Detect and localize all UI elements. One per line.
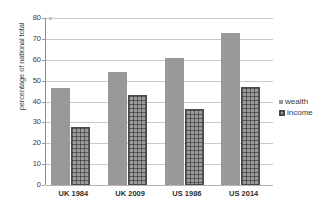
y-tick-label: 70 [19,34,41,43]
bar-group [216,18,273,185]
y-tick-mark [42,18,45,19]
bar-income [241,87,260,185]
y-tick-label: 20 [19,138,41,147]
bar-wealth [221,33,240,185]
x-tick-label: UK 1984 [45,189,101,198]
bar-group [103,18,160,185]
legend-label-income: income [287,108,313,117]
y-tick-mark [42,122,45,123]
y-tick-label: 0 [19,180,41,189]
y-tick-mark [42,102,45,103]
y-tick-mark [42,143,45,144]
bar-group [160,18,217,185]
bar-wealth [108,72,127,185]
y-tick-mark [42,60,45,61]
x-tick-label: US 1986 [159,189,215,198]
y-tick-label: 40 [19,97,41,106]
bar-group [46,18,103,185]
bar-chart: percentage of national total 01020304050… [0,0,329,214]
legend-label-wealth: wealth [285,97,308,106]
y-tick-label: 10 [19,159,41,168]
bar-wealth [51,88,70,185]
x-tick-label: UK 2009 [102,189,158,198]
y-tick-mark [42,164,45,165]
legend-swatch-wealth-icon [279,100,283,104]
bar-wealth [165,58,184,185]
bar-income [71,127,90,185]
legend-swatch-income-icon [279,110,285,116]
y-tick-label: 80 [19,13,41,22]
legend-item-wealth: wealth [279,96,313,107]
bar-income [128,95,147,185]
y-tick-mark [42,39,45,40]
legend: wealth income [279,96,313,118]
plot-area [45,18,273,185]
y-tick-label: 50 [19,76,41,85]
y-tick-label: 30 [19,117,41,126]
bar-income [185,109,204,185]
x-tick-label: US 2014 [216,189,272,198]
gridline [46,185,273,186]
y-tick-mark [42,81,45,82]
y-tick-mark [42,185,45,186]
legend-item-income: income [279,107,313,118]
y-tick-label: 60 [19,55,41,64]
